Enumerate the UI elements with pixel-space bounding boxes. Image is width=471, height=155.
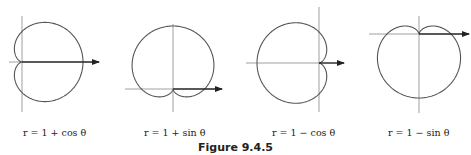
graph-1-plus-sin [125,24,222,112]
graph-1-plus-cos [9,16,99,112]
caption-graph-3: r = 1 − cos θ [272,127,335,138]
caption-graph-4: r = 1 − sin θ [388,127,449,138]
graph-1-minus-sin [369,16,469,113]
figure-label: Figure 9.4.5 [0,141,471,154]
caption-graph-2: r = 1 + sin θ [144,127,205,138]
caption-graph-1: r = 1 + cos θ [23,127,86,138]
graph-1-minus-cos [246,7,344,112]
